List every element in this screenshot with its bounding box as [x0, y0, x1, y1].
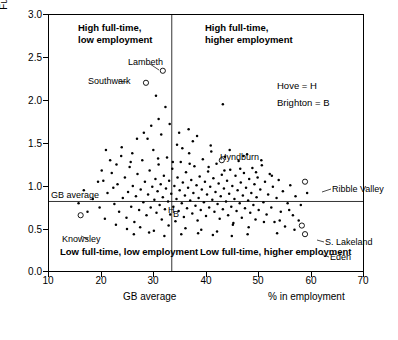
scatter-chart: Full-time: part-time ratio 3.0 2.5 2.0 1…	[0, 0, 398, 340]
svg-text:B: B	[173, 209, 179, 219]
reference-lines	[48, 14, 364, 272]
leader-lines	[81, 64, 331, 257]
chart-svg-overlay: HB	[0, 0, 398, 340]
data-points	[77, 94, 308, 237]
annotated-points-group: HB	[78, 68, 308, 237]
